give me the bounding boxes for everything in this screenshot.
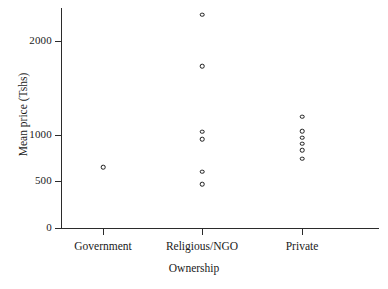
x-axis-title: Ownership xyxy=(0,262,388,275)
scatter-chart-figure: 050010002000 GovernmentReligious/NGOPriv… xyxy=(0,0,388,289)
y-axis-tick-label: 500 xyxy=(35,175,52,186)
x-axis-tick xyxy=(103,229,104,235)
data-point xyxy=(200,129,205,134)
y-axis-title: Mean price (Tshs) xyxy=(17,40,30,190)
y-axis-tick xyxy=(55,135,62,136)
data-point xyxy=(300,129,305,134)
y-axis-tick-label: 2000 xyxy=(29,35,52,46)
y-axis-tick xyxy=(55,228,62,229)
data-point xyxy=(200,64,205,69)
y-axis-tick-label: 0 xyxy=(46,222,52,233)
data-point xyxy=(300,157,305,162)
data-point xyxy=(300,142,305,147)
data-point xyxy=(200,137,205,142)
x-axis-tick-label: Government xyxy=(74,240,131,253)
x-axis-tick xyxy=(302,229,303,235)
data-point xyxy=(300,135,305,140)
data-point xyxy=(300,114,305,119)
y-axis-tick xyxy=(55,41,62,42)
data-point xyxy=(101,165,106,170)
x-axis-tick-label: Religious/NGO xyxy=(166,240,238,253)
y-axis-tick-label: 1000 xyxy=(29,129,52,140)
x-axis-line xyxy=(61,228,379,229)
x-axis-tick-label: Private xyxy=(286,240,319,253)
data-point xyxy=(200,13,205,18)
data-point xyxy=(300,148,305,153)
data-point xyxy=(200,182,205,187)
y-axis-tick xyxy=(55,181,62,182)
x-axis-tick xyxy=(202,229,203,235)
data-point xyxy=(200,170,205,175)
